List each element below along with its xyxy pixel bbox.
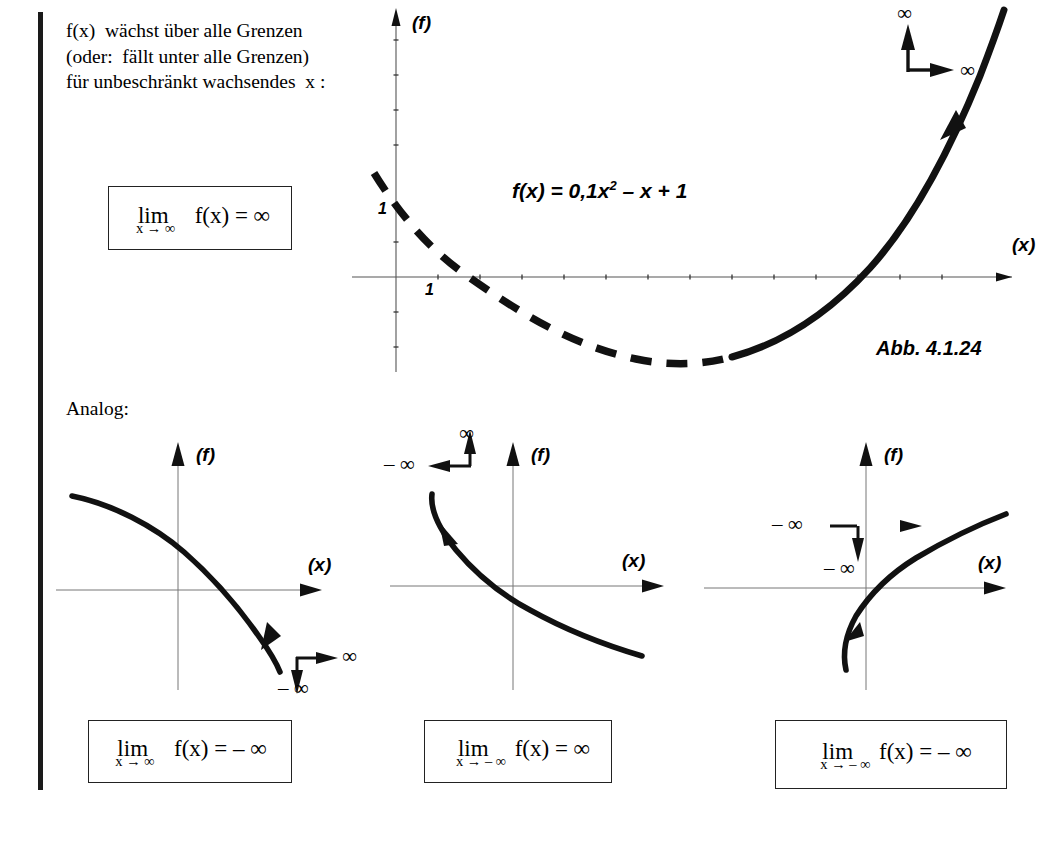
small-chart-3-annotation-infinity-horizontal: – ∞ xyxy=(772,512,803,537)
main-chart-formula: f(x) = 0,1x2 – x + 1 xyxy=(512,178,687,203)
small-chart-1-limit-box: limf(x) = – ∞ x → ∞ xyxy=(88,720,292,783)
main-chart-formula-head: f(x) = 0,1x xyxy=(512,179,609,202)
small-chart-1-direction-arrow xyxy=(261,622,281,650)
small-chart-1-limit-body: f(x) = – ∞ xyxy=(174,736,267,761)
main-chart-formula-exponent: 2 xyxy=(609,178,616,193)
small-chart-2-limit-expression: limf(x) = ∞ x → – ∞ xyxy=(458,737,590,760)
small-chart-2-limit-subscript: x → – ∞ xyxy=(456,754,506,769)
small-chart-2-limit-box: limf(x) = ∞ x → – ∞ xyxy=(424,720,612,783)
small-chart-1-y-axis-label: (f) xyxy=(196,444,215,466)
small-chart-1-limit-subscript: x → ∞ xyxy=(115,754,154,769)
small-chart-2-limit-body: f(x) = ∞ xyxy=(515,736,590,761)
small-chart-3-limit-body: f(x) = – ∞ xyxy=(879,739,972,764)
analog-label: Analog: xyxy=(66,398,129,420)
small-chart-2-direction-arrow xyxy=(439,522,458,546)
main-chart-formula-tail: – x + 1 xyxy=(623,179,688,202)
main-chart-y-axis-label: (f) xyxy=(412,12,431,34)
small-chart-3-annotation-infinity-vertical: – ∞ xyxy=(824,556,855,581)
small-chart-2-y-axis xyxy=(507,442,520,690)
main-limit-expression: limf(x) = ∞ x → ∞ xyxy=(138,204,270,227)
main-limit-body: f(x) = ∞ xyxy=(195,203,270,228)
small-chart-2-x-axis-label: (x) xyxy=(622,550,645,572)
figure-label: Abb. 4.1.24 xyxy=(876,337,982,360)
main-chart-annotation-infinity-horizontal: ∞ xyxy=(960,58,975,83)
small-chart-3-x-axis xyxy=(704,582,1006,595)
small-chart-1-limit-expression: limf(x) = – ∞ x → ∞ xyxy=(117,737,266,760)
main-chart-y-axis xyxy=(392,8,401,372)
small-chart-3-x-axis-label: (x) xyxy=(978,552,1001,574)
small-chart-2-x-axis xyxy=(390,580,664,593)
main-chart-y-tick-1: 1 xyxy=(378,200,387,218)
main-chart-x-tick-1: 1 xyxy=(425,281,434,299)
small-chart-2: (x) (f) ∞ – ∞ xyxy=(380,424,680,694)
small-chart-3-y-axis xyxy=(860,442,873,690)
small-chart-2-curve xyxy=(432,494,642,656)
small-chart-2-annotation-infinity-horizontal: – ∞ xyxy=(384,452,415,477)
small-chart-2-annotation-infinity-vertical: ∞ xyxy=(459,421,474,446)
main-limit-box: limf(x) = ∞ x → ∞ xyxy=(108,186,292,250)
small-chart-1-annotation-infinity-horizontal: ∞ xyxy=(342,644,357,669)
small-chart-3-limit-box: limf(x) = – ∞ x → – ∞ xyxy=(775,720,1007,789)
small-chart-2-y-axis-label: (f) xyxy=(531,444,550,466)
small-chart-1-x-axis xyxy=(56,584,322,597)
small-chart-3: (x) (f) – ∞ – ∞ xyxy=(700,424,1047,694)
small-chart-1-y-axis xyxy=(172,442,185,690)
small-chart-1-curve xyxy=(72,496,280,672)
small-chart-1-annotation-infinity-vertical: – ∞ xyxy=(278,676,309,701)
small-chart-3-limit-expression: limf(x) = – ∞ x → – ∞ xyxy=(822,740,971,763)
small-chart-1-x-axis-label: (x) xyxy=(308,554,331,576)
main-chart-x-axis-label: (x) xyxy=(1012,234,1035,256)
main-chart-annotation-arrows xyxy=(901,24,954,77)
left-margin-rule xyxy=(38,12,43,790)
small-chart-3-limit-subscript: x → – ∞ xyxy=(820,757,870,772)
main-chart-x-axis xyxy=(352,273,1012,282)
small-chart-1: (x) (f) ∞ – ∞ xyxy=(50,424,380,694)
small-chart-3-y-axis-label: (f) xyxy=(884,444,903,466)
small-chart-3-curve xyxy=(844,514,1006,670)
main-limit-subscript: x → ∞ xyxy=(136,221,175,236)
main-chart-annotation-infinity-vertical: ∞ xyxy=(897,1,912,26)
